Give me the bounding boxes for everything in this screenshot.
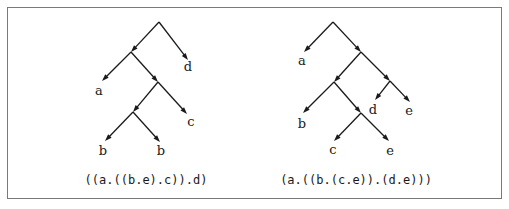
tree-edge [106,52,131,77]
tree-edge [361,52,386,77]
right-tree: abdece (a.((b.(c.e)).(d.e))) [280,22,432,187]
tree-edge [159,22,184,55]
tree-edge [333,22,357,48]
tree-edge [158,82,183,110]
leaf-label: e [386,143,394,158]
tree-edge [109,112,133,137]
tree-edge [308,22,333,48]
leaf-label: b [298,116,306,131]
tree-edge [338,113,361,137]
tree-edge [338,52,361,78]
tree-edges [303,22,410,141]
leaf-label: b [99,143,107,158]
leaf-label: d [369,102,377,117]
tree-leaves: abdece [298,53,413,158]
leaf-label: c [187,114,194,129]
leaf-label: a [298,53,306,68]
tree-edge [131,52,154,78]
tree-caption-right: (a.((b.(c.e)).(d.e))) [280,173,432,187]
binary-tree-diagram: dacbb ((a.((b.e).c)).d) abdece (a.((b.(c… [0,0,509,209]
leaf-label: e [405,103,413,118]
leaf-label: d [184,59,192,74]
tree-edge [307,82,334,109]
left-tree: dacbb ((a.((b.e).c)).d) [85,22,208,187]
tree-caption-left: ((a.((b.e).c)).d) [85,173,208,187]
tree-edge [334,82,357,108]
leaf-label: b [157,143,165,158]
tree-edges [102,22,188,142]
tree-edge [133,112,156,138]
tree-edge [135,22,159,48]
tree-edge [379,81,390,95]
tree-edge [390,81,406,98]
tree-edge [137,82,158,107]
leaf-label: c [329,142,336,157]
leaf-label: a [95,83,103,98]
